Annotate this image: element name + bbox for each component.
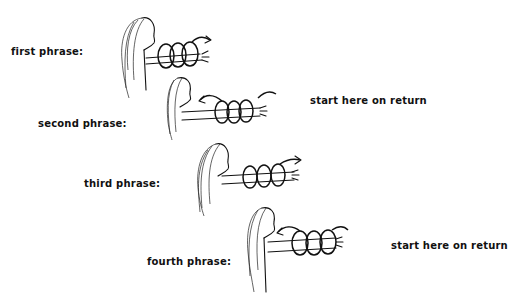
girl-arm-spiral-left-icon [238,200,358,296]
girl-arm-spiral-left-icon [162,72,282,142]
phrase-label-fourth: fourth phrase: [147,256,231,267]
phrase-label-second: second phrase: [38,118,127,129]
girl-figure-fourth [238,200,358,296]
girl-figure-second [162,72,282,142]
return-note-second: start here on return [310,95,427,106]
phrase-label-first: first phrase: [11,46,83,57]
phrase-label-third: third phrase: [84,178,160,189]
return-note-fourth: start here on return [391,240,508,251]
